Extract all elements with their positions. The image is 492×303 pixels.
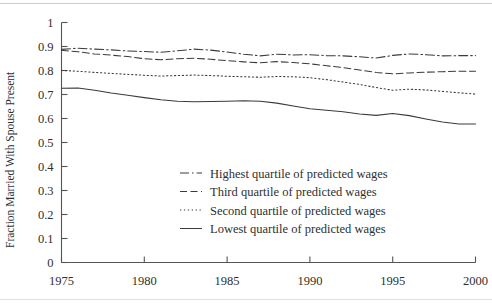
x-tick-label: 1985 bbox=[215, 274, 240, 288]
y-tick-label: 0 bbox=[47, 256, 53, 270]
y-tick-label: 0.2 bbox=[38, 208, 54, 222]
series-lines bbox=[62, 48, 476, 124]
x-tick-label: 2000 bbox=[463, 274, 488, 288]
y-tick-label: 0.3 bbox=[38, 184, 54, 198]
y-tick-label: 0.5 bbox=[38, 136, 54, 150]
x-tick-label: 1995 bbox=[380, 274, 405, 288]
scan-artifact-top bbox=[0, 3, 492, 4]
legend-label-1: Third quartile of predicted wages bbox=[210, 185, 377, 199]
legend-label-0: Highest quartile of predicted wages bbox=[210, 167, 388, 181]
legend-label-2: Second quartile of predicted wages bbox=[210, 204, 386, 218]
y-tick-label: 0.8 bbox=[38, 64, 54, 78]
axes: 00.10.20.30.40.50.60.70.80.91 1975198019… bbox=[38, 16, 488, 288]
y-axis-title-text: Fraction Married With Spouse Present bbox=[4, 71, 17, 248]
y-tick-label: 0.9 bbox=[38, 40, 54, 54]
x-tick-label: 1990 bbox=[297, 274, 322, 288]
x-tick-label: 1975 bbox=[49, 274, 74, 288]
chart-figure: Fraction Married With Spouse Present 00.… bbox=[0, 0, 492, 303]
chart-legend: Highest quartile of predicted wagesThird… bbox=[180, 167, 388, 237]
y-tick-label: 0.6 bbox=[38, 112, 54, 126]
series-line-0 bbox=[62, 48, 476, 58]
series-line-2 bbox=[62, 71, 476, 95]
legend-label-3: Lowest quartile of predicted wages bbox=[210, 222, 386, 236]
x-tick-label: 1980 bbox=[132, 274, 157, 288]
y-axis-title: Fraction Married With Spouse Present bbox=[4, 71, 17, 248]
x-axis-ticks: 197519801985199019952000 bbox=[49, 257, 488, 288]
y-tick-label: 0.7 bbox=[38, 88, 54, 102]
y-tick-label: 0.1 bbox=[38, 232, 54, 246]
y-axis-ticks: 00.10.20.30.40.50.60.70.80.91 bbox=[38, 16, 68, 270]
y-tick-label: 1 bbox=[47, 16, 53, 30]
scan-artifact-bottom bbox=[0, 299, 492, 300]
y-tick-label: 0.4 bbox=[38, 160, 54, 174]
series-line-3 bbox=[62, 88, 476, 124]
line-chart: Fraction Married With Spouse Present 00.… bbox=[0, 0, 492, 303]
